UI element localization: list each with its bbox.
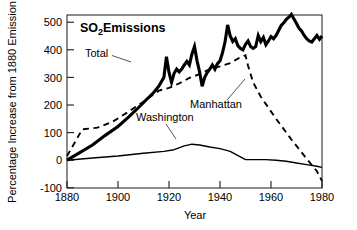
y-tick-label-200: 200 [44,99,62,111]
series-line-washington [67,144,322,167]
series-line-total [67,14,322,160]
x-tick-label-1920: 1920 [157,191,181,203]
chart-title-main: SO [80,21,98,35]
washington-leader-line [166,124,176,139]
so2-emissions-line-chart: 500 400 300 200 100 0 -100 1880 1900 192… [0,0,357,230]
x-tick-label-1940: 1940 [208,191,232,203]
series-line-manhattan [67,55,322,181]
y-tick-label-500: 500 [44,16,62,28]
y-tick-label-0: 0 [56,154,62,166]
y-tick-label-100: 100 [44,127,62,139]
x-tick-label-1960: 1960 [259,191,283,203]
series-label-manhattan: Manhattan [190,98,242,110]
y-tick-label-400: 400 [44,44,62,56]
y-tick-labels: 500 400 300 200 100 0 -100 [40,16,62,194]
y-tick-marks [67,22,74,188]
x-tick-marks [67,181,322,188]
y-tick-label-300: 300 [44,72,62,84]
x-tick-label-1980: 1980 [310,191,334,203]
series-label-total: Total [85,47,108,59]
chart-title-tail: Emissions [103,21,166,35]
chart-figure: 500 400 300 200 100 0 -100 1880 1900 192… [0,0,357,230]
x-tick-labels: 1880 1900 1920 1940 1960 1980 [55,191,334,203]
series-label-washington: Washington [136,111,194,123]
x-axis-title: Year [184,209,207,221]
manhattan-leader-line [227,79,245,100]
chart-title: SO 2 Emissions [80,21,166,37]
total-leader-line [112,56,131,63]
y-axis-title: Percentage Increase from 1880 Emission [6,1,18,203]
x-tick-label-1880: 1880 [55,191,79,203]
x-tick-label-1900: 1900 [106,191,130,203]
